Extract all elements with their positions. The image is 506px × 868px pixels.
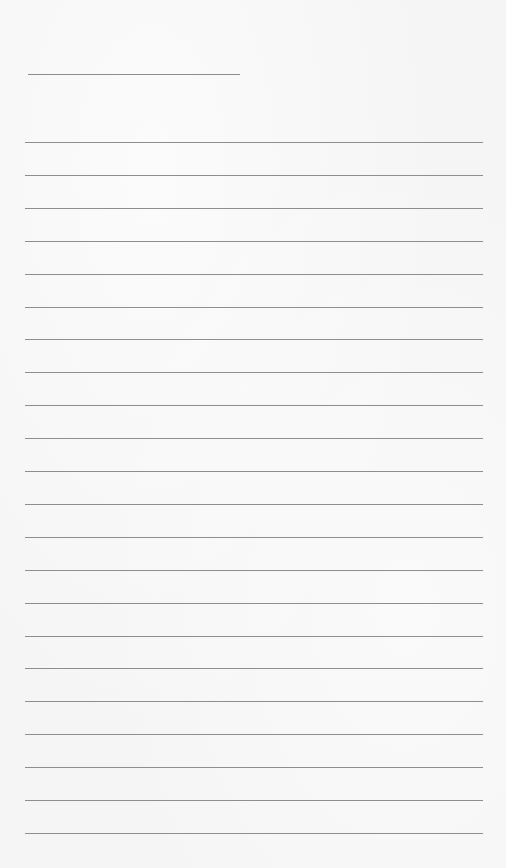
ruled-line [25, 142, 483, 143]
ruled-line [25, 603, 483, 604]
ruled-line [25, 471, 483, 472]
ruled-line [25, 274, 483, 275]
ruled-line [25, 208, 483, 209]
ruled-line [25, 668, 483, 669]
ruled-line [25, 307, 483, 308]
ruled-line [25, 570, 483, 571]
ruled-line [25, 800, 483, 801]
ruled-line [25, 339, 483, 340]
ruled-line [25, 175, 483, 176]
ruled-line [25, 767, 483, 768]
lined-paper-sheet [0, 0, 506, 868]
ruled-line [25, 438, 483, 439]
ruled-line [25, 701, 483, 702]
ruled-line [25, 241, 483, 242]
ruled-line [25, 636, 483, 637]
ruled-line [25, 405, 483, 406]
header-name-line [28, 74, 240, 75]
ruled-line [25, 833, 483, 834]
ruled-line [25, 734, 483, 735]
ruled-line [25, 372, 483, 373]
ruled-line [25, 504, 483, 505]
ruled-line [25, 537, 483, 538]
